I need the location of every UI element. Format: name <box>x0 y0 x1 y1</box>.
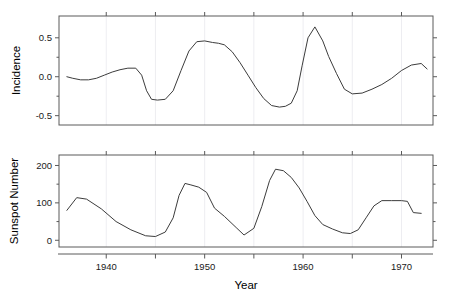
yaxis-title-incidence: Incidence <box>10 46 22 95</box>
chart-canvas: 0.50.0-0.5Incidence2001000Sunspot Number… <box>0 0 450 307</box>
xaxis-title: Year <box>234 279 257 291</box>
ytick-label: 100 <box>36 197 52 208</box>
ytick-label: 200 <box>36 160 52 171</box>
xtick-label: 1960 <box>293 261 314 272</box>
sunspot-panel: 2001000Sunspot Number <box>8 151 437 247</box>
yaxis-title-sunspot-number: Sunspot Number <box>8 158 20 244</box>
ytick-label: -0.5 <box>36 110 52 121</box>
xtick-label: 1950 <box>194 261 215 272</box>
ytick-label: 0.5 <box>39 32 52 43</box>
xtick-label: 1970 <box>391 261 412 272</box>
ytick-label: 0.0 <box>39 71 52 82</box>
data-line-sunspot <box>67 169 421 236</box>
plot-frame <box>59 16 433 125</box>
xaxis: 1940195019601970Year <box>58 254 433 291</box>
ytick-label: 0 <box>47 235 52 246</box>
sunspot-incidence-figure: 0.50.0-0.5Incidence2001000Sunspot Number… <box>0 0 450 307</box>
incidence-panel: 0.50.0-0.5Incidence <box>10 12 437 125</box>
data-line-incidence <box>67 27 427 107</box>
xtick-label: 1940 <box>96 261 117 272</box>
